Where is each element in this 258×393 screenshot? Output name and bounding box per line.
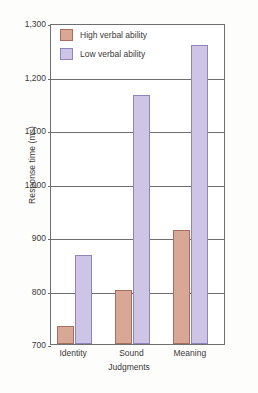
legend-swatch-icon-high bbox=[60, 29, 73, 41]
y-axis-tick-mark bbox=[48, 346, 51, 347]
x-axis-category-label: Meaning bbox=[174, 348, 207, 358]
legend-label-low: Low verbal ability bbox=[80, 49, 145, 59]
chart-legend: High verbal ability Low verbal ability bbox=[60, 29, 147, 67]
y-axis-tick-label: 1,200 bbox=[0, 73, 46, 83]
legend-item-high-verbal-ability: High verbal ability bbox=[60, 29, 147, 41]
bar-identity-low bbox=[75, 255, 92, 344]
bar-meaning-high bbox=[173, 230, 190, 344]
bar-sound-high bbox=[115, 290, 132, 344]
bar-sound-low bbox=[133, 95, 150, 344]
y-axis-tick-mark bbox=[48, 239, 51, 240]
legend-item-low-verbal-ability: Low verbal ability bbox=[60, 48, 147, 60]
legend-label-high: High verbal ability bbox=[80, 30, 147, 40]
x-axis-title: Judgments bbox=[0, 362, 258, 372]
y-axis-tick-mark bbox=[48, 293, 51, 294]
y-axis-tick-mark bbox=[48, 79, 51, 80]
y-axis-tick-mark bbox=[48, 186, 51, 187]
y-axis-tick-mark bbox=[48, 132, 51, 133]
y-axis-tick-label: 900 bbox=[0, 233, 46, 243]
bar-identity-high bbox=[57, 326, 74, 344]
y-axis-tick-label: 700 bbox=[0, 340, 46, 350]
y-axis-tick-label: 1,000 bbox=[0, 180, 46, 190]
y-axis-tick-label: 800 bbox=[0, 287, 46, 297]
y-axis-title: Response time (ms) bbox=[27, 85, 37, 245]
x-axis-category-label: Sound bbox=[119, 348, 144, 358]
bar-chart-figure: Response time (ms) High verbal ability L… bbox=[0, 0, 258, 393]
legend-swatch-icon-low bbox=[60, 48, 73, 60]
plot-area bbox=[50, 24, 225, 345]
x-axis-category-label: Identity bbox=[59, 348, 86, 358]
y-axis-tick-label: 1,300 bbox=[0, 19, 46, 29]
y-axis-tick-label: 1,100 bbox=[0, 126, 46, 136]
bar-meaning-low bbox=[191, 45, 208, 344]
y-axis-tick-mark bbox=[48, 25, 51, 26]
